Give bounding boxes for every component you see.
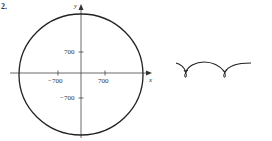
- x-axis-arrow-icon: [146, 71, 152, 76]
- y-axis-arrow-icon: [79, 4, 84, 10]
- x-tick-pos: 700: [98, 78, 109, 85]
- y-axis-label: y: [74, 3, 77, 10]
- y-tick-neg: −700: [60, 95, 74, 102]
- y-tick-pos: 700: [64, 49, 75, 56]
- x-axis-label: x: [149, 77, 152, 84]
- axes: [10, 6, 150, 138]
- x-tick-neg: −700: [48, 78, 62, 85]
- figure-canvas: [0, 0, 272, 141]
- figure-label: 2.: [1, 3, 7, 11]
